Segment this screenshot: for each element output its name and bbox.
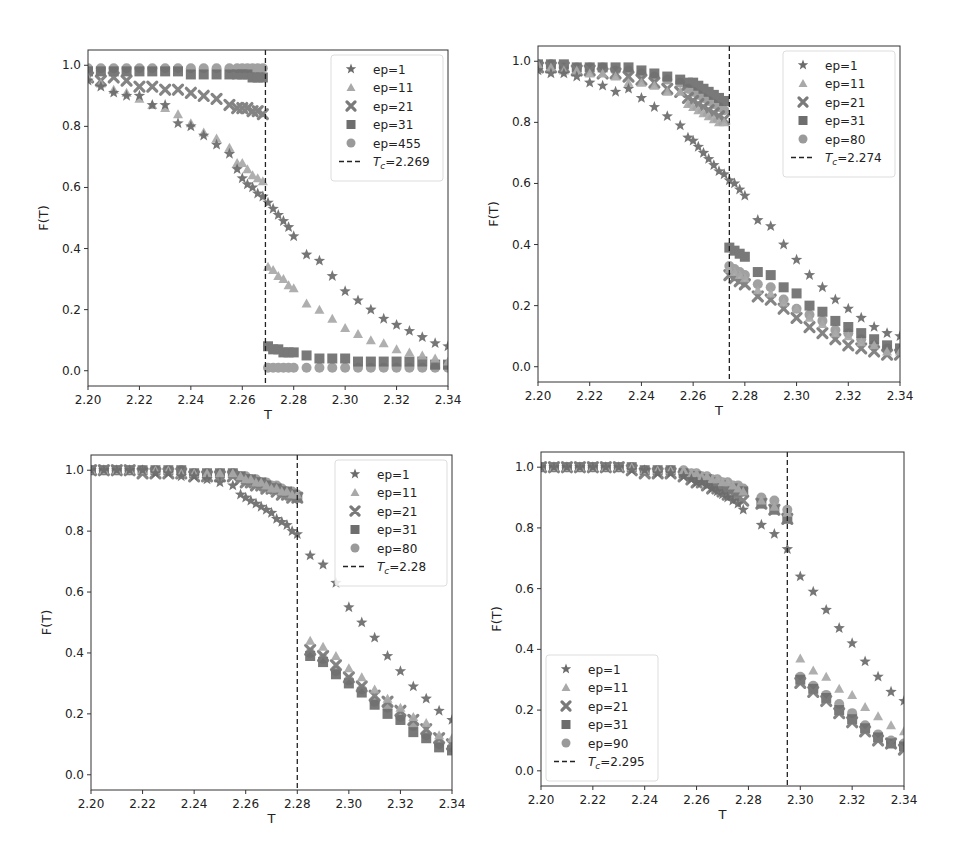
panel-top-right: 2.202.222.242.262.282.302.322.340.00.20.… bbox=[486, 46, 913, 418]
square-marker bbox=[186, 69, 196, 79]
y-tick-label: 0.4 bbox=[515, 642, 534, 656]
x-tick-label: 2.24 bbox=[628, 389, 655, 403]
square-marker bbox=[719, 96, 729, 106]
x-tick-label: 2.30 bbox=[335, 797, 362, 811]
y-tick-label: 0.4 bbox=[65, 646, 84, 660]
legend-entry: ep=31 bbox=[825, 114, 865, 128]
panel-bottom-right: 2.202.222.242.262.282.302.322.340.00.20.… bbox=[489, 452, 917, 822]
legend-entry: ep=11 bbox=[373, 81, 413, 95]
square-marker bbox=[856, 328, 866, 338]
y-tick-label: 0.2 bbox=[512, 299, 531, 313]
square-marker bbox=[147, 66, 157, 76]
y-tick-label: 0.0 bbox=[515, 764, 534, 778]
circle-marker bbox=[340, 363, 350, 373]
square-marker bbox=[199, 69, 209, 79]
legend-entry: ep=31 bbox=[588, 718, 628, 732]
square-marker bbox=[379, 357, 389, 367]
square-marker bbox=[351, 525, 360, 534]
y-tick-label: 0.6 bbox=[515, 582, 534, 596]
x-tick-label: 2.26 bbox=[229, 393, 256, 407]
y-tick-label: 0.0 bbox=[512, 360, 531, 374]
x-tick-label: 2.28 bbox=[731, 389, 758, 403]
square-marker bbox=[383, 709, 393, 719]
square-marker bbox=[353, 357, 363, 367]
x-tick-label: 2.20 bbox=[525, 389, 552, 403]
x-tick-label: 2.32 bbox=[387, 797, 414, 811]
x-tick-label: 2.34 bbox=[891, 793, 918, 807]
square-marker bbox=[160, 66, 170, 76]
legend: ep=1ep=11ep=21ep=31ep=455Tc=2.269 bbox=[331, 55, 443, 181]
x-tick-label: 2.26 bbox=[232, 797, 259, 811]
legend-entry: ep=31 bbox=[377, 523, 417, 537]
y-tick-label: 0.8 bbox=[62, 119, 81, 133]
legend-entry: ep=1 bbox=[588, 663, 621, 677]
x-tick-label: 2.20 bbox=[75, 393, 102, 407]
x-tick-label: 2.32 bbox=[383, 393, 410, 407]
x-tick-label: 2.22 bbox=[129, 797, 156, 811]
y-tick-label: 0.8 bbox=[512, 115, 531, 129]
x-axis-label: T bbox=[263, 407, 272, 422]
x-tick-label: 2.22 bbox=[579, 793, 606, 807]
y-tick-label: 0.6 bbox=[62, 180, 81, 194]
circle-marker bbox=[302, 363, 312, 373]
x-tick-label: 2.32 bbox=[835, 389, 862, 403]
y-tick-label: 1.0 bbox=[512, 54, 531, 68]
x-axis-label: T bbox=[718, 807, 727, 822]
x-tick-label: 2.28 bbox=[284, 797, 311, 811]
circle-marker bbox=[351, 544, 360, 553]
panel-top-left: 2.202.222.242.262.282.302.322.340.00.20.… bbox=[36, 50, 461, 422]
legend-entry: ep=11 bbox=[825, 77, 865, 91]
circle-marker bbox=[347, 139, 356, 148]
y-tick-label: 0.8 bbox=[65, 524, 84, 538]
legend: ep=1ep=11ep=21ep=31ep=80Tc=2.274 bbox=[783, 51, 895, 177]
y-tick-label: 0.0 bbox=[62, 364, 81, 378]
square-marker bbox=[366, 357, 376, 367]
y-tick-label: 0.4 bbox=[512, 238, 531, 252]
circle-marker bbox=[258, 63, 268, 73]
y-axis-label: F(T) bbox=[489, 606, 504, 632]
y-tick-label: 0.2 bbox=[62, 303, 81, 317]
x-tick-label: 2.26 bbox=[680, 389, 707, 403]
x-tick-label: 2.24 bbox=[181, 797, 208, 811]
legend-entry: ep=455 bbox=[373, 137, 421, 151]
legend-entry: ep=21 bbox=[373, 100, 413, 114]
legend-entry: ep=21 bbox=[825, 96, 865, 110]
circle-marker bbox=[799, 135, 808, 144]
square-marker bbox=[830, 316, 840, 326]
x-tick-label: 2.28 bbox=[735, 793, 762, 807]
square-marker bbox=[404, 357, 414, 367]
y-tick-label: 0.2 bbox=[515, 703, 534, 717]
circle-marker bbox=[289, 363, 299, 373]
square-marker bbox=[408, 727, 418, 737]
legend: ep=1ep=11ep=21ep=31ep=90Tc=2.295 bbox=[546, 655, 658, 781]
x-tick-label: 2.22 bbox=[576, 389, 603, 403]
x-tick-label: 2.22 bbox=[126, 393, 153, 407]
figure-canvas: 2.202.222.242.262.282.302.322.340.00.20.… bbox=[0, 0, 961, 856]
x-tick-label: 2.30 bbox=[332, 393, 359, 407]
square-marker bbox=[314, 354, 324, 364]
y-tick-label: 0.6 bbox=[512, 176, 531, 190]
square-marker bbox=[347, 120, 356, 129]
legend-entry: ep=80 bbox=[377, 542, 417, 556]
square-marker bbox=[779, 282, 789, 292]
x-tick-label: 2.26 bbox=[683, 793, 710, 807]
square-marker bbox=[740, 252, 750, 262]
square-marker bbox=[340, 354, 350, 364]
square-marker bbox=[302, 350, 312, 360]
x-tick-label: 2.34 bbox=[435, 393, 462, 407]
legend: ep=1ep=11ep=21ep=31ep=80Tc=2.28 bbox=[335, 460, 447, 586]
x-axis-label: T bbox=[267, 811, 276, 826]
circle-marker bbox=[562, 739, 571, 748]
y-tick-label: 1.0 bbox=[65, 463, 84, 477]
x-tick-label: 2.32 bbox=[839, 793, 866, 807]
x-tick-label: 2.30 bbox=[783, 389, 810, 403]
panel-bottom-left: 2.202.222.242.262.282.302.322.340.00.20.… bbox=[39, 455, 465, 826]
y-tick-label: 0.6 bbox=[65, 585, 84, 599]
legend-entry: ep=1 bbox=[377, 468, 410, 482]
square-marker bbox=[327, 354, 337, 364]
square-marker bbox=[134, 66, 144, 76]
y-tick-label: 0.0 bbox=[65, 768, 84, 782]
y-axis-label: F(T) bbox=[39, 610, 54, 636]
legend-entry: ep=11 bbox=[377, 486, 417, 500]
x-tick-label: 2.34 bbox=[887, 389, 914, 403]
